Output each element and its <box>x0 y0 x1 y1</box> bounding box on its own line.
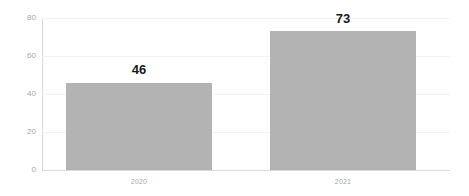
y-axis-tick-label-0: 0 <box>0 166 36 174</box>
y-axis-tick-label-20: 20 <box>0 128 36 136</box>
x-axis-line <box>42 170 450 171</box>
bar-2020[interactable] <box>66 83 212 170</box>
y-axis-tick-label-60: 60 <box>0 52 36 60</box>
x-axis-tick-label-2021: 2021 <box>270 178 416 185</box>
plot-area <box>42 18 450 170</box>
y-axis-tick-label-40: 40 <box>0 90 36 98</box>
bar-chart: 80 60 40 20 0 46 73 2020 2021 <box>0 0 469 196</box>
bar-value-2021: 73 <box>270 12 416 25</box>
bar-value-2020: 46 <box>66 63 212 76</box>
x-axis-tick-label-2020: 2020 <box>66 178 212 185</box>
bar-2021[interactable] <box>270 31 416 170</box>
y-axis-tick-label-80: 80 <box>0 14 36 22</box>
